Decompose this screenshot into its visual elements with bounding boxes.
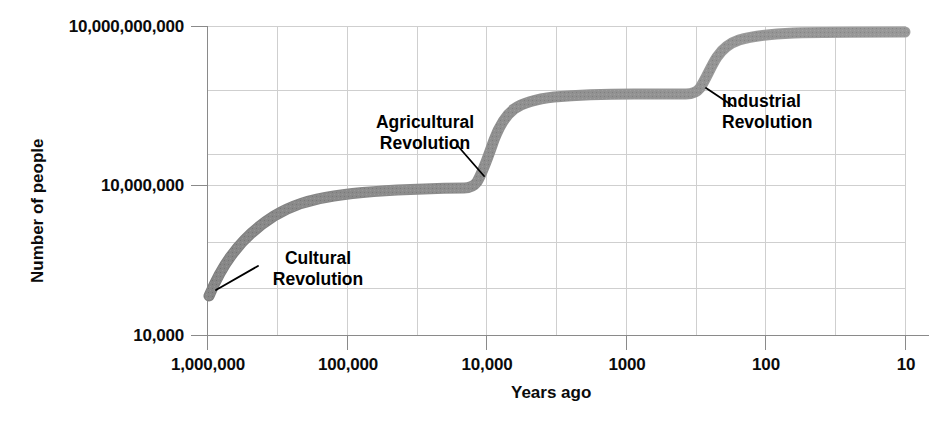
annotation-industrial-line2: Revolution [722, 112, 812, 133]
annotation-cultural-line1: Cultural [273, 248, 363, 269]
x-tick-label-1000: 1000 [608, 355, 645, 375]
y-axis-title: Number of people [28, 138, 48, 283]
annotation-agricultural-revolution: Agricultural Revolution [376, 112, 474, 154]
y-tick-marks [191, 27, 208, 336]
annotation-industrial-revolution: Industrial Revolution [722, 91, 812, 133]
chart-canvas: 10,000,000,000 10,000,000 10,000 1,000,0… [0, 0, 933, 423]
x-tick-label-100: 100 [752, 355, 780, 375]
annotation-agricultural-line2: Revolution [376, 133, 474, 154]
x-tick-marks [208, 336, 906, 350]
x-tick-label-1000000: 1,000,000 [171, 355, 245, 375]
annotation-cultural-revolution: Cultural Revolution [273, 248, 363, 290]
x-axis-title: Years ago [511, 383, 591, 403]
x-tick-label-10000: 10,000 [462, 355, 513, 375]
y-tick-label-10000: 10,000 [0, 326, 184, 346]
annotation-agricultural-line1: Agricultural [376, 112, 474, 133]
x-tick-label-100000: 100,000 [318, 355, 378, 375]
x-tick-label-10: 10 [897, 355, 916, 375]
annotation-cultural-line2: Revolution [273, 269, 363, 290]
y-tick-label-10000000000: 10,000,000,000 [0, 17, 184, 37]
annotation-industrial-line1: Industrial [722, 91, 812, 112]
